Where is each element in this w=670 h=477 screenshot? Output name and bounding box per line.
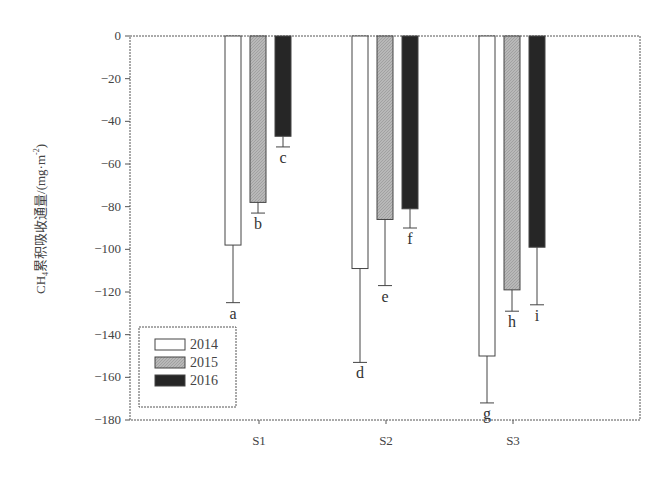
legend-label-2016: 2016 (190, 373, 218, 388)
x-tick-label: S3 (506, 433, 520, 448)
bar-S3-2014: g (479, 36, 495, 423)
y-tick-label: −160 (94, 369, 121, 384)
significance-letter: g (483, 405, 491, 423)
bar-S2-2015: e (377, 36, 393, 305)
legend-swatch-2015 (155, 357, 185, 368)
legend-swatch-2016 (155, 375, 185, 386)
legend-box (139, 327, 236, 407)
legend-label-2015: 2015 (190, 355, 218, 370)
x-tick-label: S2 (379, 433, 393, 448)
bar-chart: 0−20−40−60−80−100−120−140−160−180S1S2S3 … (0, 0, 670, 477)
bar-S3-2015: h (504, 36, 520, 330)
bar-S1-2015: b (250, 36, 266, 232)
legend: 201420152016 (139, 327, 236, 407)
y-tick-label: −140 (94, 327, 121, 342)
significance-letter: c (279, 149, 286, 166)
bar-S2-2016: f (402, 36, 418, 247)
significance-letter: a (229, 305, 236, 322)
significance-letter: b (254, 215, 262, 232)
bar-S2-2014: d (352, 36, 368, 381)
significance-letter: h (508, 313, 516, 330)
legend-label-2014: 2014 (190, 337, 218, 352)
y-tick-label: −20 (101, 71, 121, 86)
y-tick-label: −180 (94, 412, 121, 427)
y-tick-label: −100 (94, 241, 121, 256)
x-tick-label: S1 (252, 433, 266, 448)
y-tick-label: −80 (101, 199, 121, 214)
significance-letter: i (535, 307, 540, 324)
legend-swatch-2014 (155, 339, 185, 350)
significance-letter: d (356, 364, 364, 381)
y-tick-label: 0 (115, 28, 122, 43)
bar-S1-2016: c (275, 36, 291, 166)
y-tick-label: −40 (101, 113, 121, 128)
y-tick-label: −60 (101, 156, 121, 171)
significance-letter: e (381, 288, 388, 305)
bar-S1-2014: a (225, 36, 241, 322)
y-tick-label: −120 (94, 284, 121, 299)
significance-letter: f (407, 230, 413, 247)
bar-S3-2016: i (529, 36, 545, 324)
bars: adgbehcfi (225, 36, 545, 423)
